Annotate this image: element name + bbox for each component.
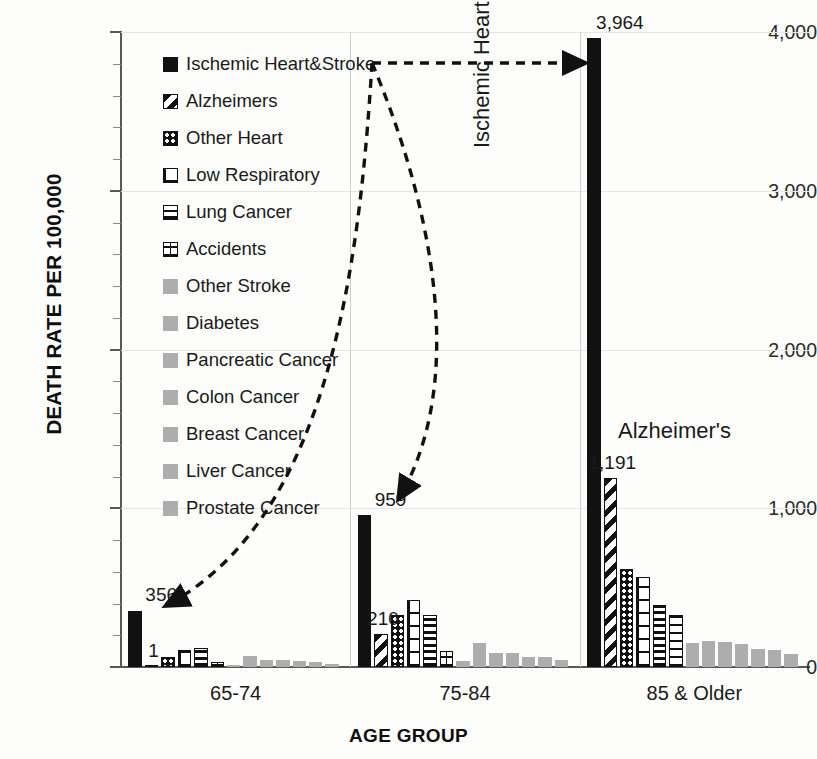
legend-swatch-icon [163, 316, 178, 331]
bar[interactable] [473, 643, 486, 667]
bar[interactable] [587, 38, 600, 667]
y-tick-minor [113, 635, 121, 636]
bar[interactable] [555, 660, 568, 667]
category-label: 85 & Older [647, 682, 743, 705]
legend-item[interactable]: Other Heart [163, 120, 393, 157]
bar[interactable] [440, 651, 453, 667]
bar[interactable] [325, 664, 338, 667]
bar[interactable] [456, 661, 469, 667]
bar[interactable] [293, 661, 306, 667]
legend-item[interactable]: Accidents [163, 231, 393, 268]
y-tick-minor [113, 540, 121, 541]
y-tick-major [110, 666, 121, 668]
bar[interactable] [423, 615, 436, 667]
legend-item[interactable]: Low Respiratory [163, 157, 393, 194]
bar[interactable] [538, 657, 551, 667]
bar[interactable] [260, 660, 273, 667]
y-tick-minor [113, 381, 121, 382]
chart-container: DEATH RATE PER 100,000 AGE GROUP 01,0002… [0, 0, 817, 759]
bar[interactable] [669, 615, 682, 667]
legend-item-label: Accidents [186, 240, 266, 259]
y-tick-minor [113, 286, 121, 287]
bar[interactable] [653, 605, 666, 667]
legend-item-label: Liver Cancer [186, 462, 291, 481]
gridline [121, 32, 809, 33]
y-tick-minor [113, 96, 121, 97]
bar-value-label: 210 [367, 608, 399, 630]
y-tick-minor [113, 477, 121, 478]
legend-item-label: Diabetes [186, 314, 259, 333]
legend-item[interactable]: Colon Cancer [163, 379, 393, 416]
bar[interactable] [735, 644, 748, 667]
bar[interactable] [636, 577, 649, 667]
bar[interactable] [604, 478, 617, 667]
bar[interactable] [407, 600, 420, 667]
category-separator [580, 32, 581, 667]
bar-value-label: 1,191 [589, 452, 637, 474]
legend-swatch-icon [163, 279, 178, 294]
y-tick-major [110, 507, 121, 509]
legend-item[interactable]: Liver Cancer [163, 453, 393, 490]
bar[interactable] [374, 634, 387, 667]
bar[interactable] [128, 611, 141, 668]
category-label: 75-84 [439, 682, 490, 705]
legend-item[interactable]: Diabetes [163, 305, 393, 342]
bar[interactable] [211, 662, 224, 667]
bar[interactable] [751, 649, 764, 667]
legend-item-label: Alzheimers [186, 92, 278, 111]
legend-item[interactable]: Other Stroke [163, 268, 393, 305]
y-axis-title: DEATH RATE PER 100,000 [42, 154, 66, 454]
category-label: 65-74 [210, 682, 261, 705]
bar[interactable] [522, 657, 535, 667]
y-tick-minor [113, 254, 121, 255]
legend-item-label: Prostate Cancer [186, 499, 320, 518]
legend-swatch-icon [163, 242, 178, 257]
bar[interactable] [702, 641, 715, 667]
legend-item-label: Ischemic Heart&Stroke [186, 55, 375, 74]
bar[interactable] [243, 656, 256, 667]
bar[interactable] [161, 657, 174, 667]
y-tick-minor [113, 413, 121, 414]
legend-item[interactable]: Ischemic Heart&Stroke [163, 46, 393, 83]
y-tick-minor [113, 572, 121, 573]
legend-item-label: Lung Cancer [186, 203, 292, 222]
legend-item-label: Pancreatic Cancer [186, 351, 338, 370]
bar[interactable] [276, 660, 289, 667]
legend-item[interactable]: Pancreatic Cancer [163, 342, 393, 379]
bar[interactable] [686, 643, 699, 667]
bar[interactable] [718, 642, 731, 667]
bar[interactable] [194, 648, 207, 667]
legend-item-label: Low Respiratory [186, 166, 320, 185]
legend-item[interactable]: Alzheimers [163, 83, 393, 120]
annotation-alzheimers: Alzheimer's [618, 418, 731, 444]
bar-value-label: 3,964 [596, 12, 644, 34]
legend-swatch-icon [163, 353, 178, 368]
bar[interactable] [784, 654, 797, 667]
y-tick-minor [113, 64, 121, 65]
bar[interactable] [358, 515, 371, 667]
legend-item[interactable]: Breast Cancer [163, 416, 393, 453]
y-tick-major [110, 31, 121, 33]
legend-swatch-icon [163, 131, 178, 146]
legend-item[interactable]: Lung Cancer [163, 194, 393, 231]
bar[interactable] [768, 650, 781, 667]
bar[interactable] [620, 569, 633, 667]
y-tick-minor [113, 223, 121, 224]
bar[interactable] [178, 650, 191, 667]
legend-swatch-icon [163, 501, 178, 516]
bar-value-label: 356 [145, 584, 177, 606]
y-tick-minor [113, 159, 121, 160]
bar[interactable] [506, 653, 519, 667]
bar[interactable] [145, 665, 158, 667]
y-tick-minor [113, 445, 121, 446]
bar[interactable] [227, 665, 240, 667]
legend-swatch-icon [163, 464, 178, 479]
bar[interactable] [309, 662, 322, 667]
legend-item[interactable]: Prostate Cancer [163, 490, 393, 527]
legend-swatch-icon [163, 57, 178, 72]
legend-swatch-icon [163, 94, 178, 109]
bar[interactable] [489, 653, 502, 667]
y-tick-major [110, 349, 121, 351]
x-axis-title: AGE GROUP [0, 725, 817, 747]
legend-item-label: Colon Cancer [186, 388, 299, 407]
